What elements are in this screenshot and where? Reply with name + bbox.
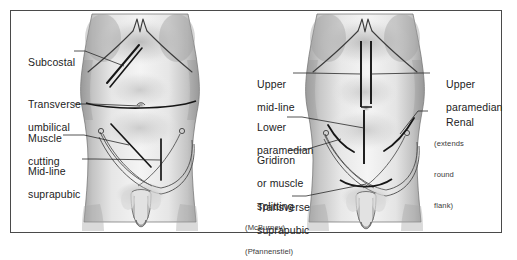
label-transverse-suprapubic-eponym: (Pfannenstiel)	[245, 248, 310, 256]
label-subcostal-text: Subcostal	[28, 56, 75, 68]
label-transverse-suprapubic: Transverse suprapubic (Pfannenstiel)	[245, 190, 310, 260]
label-transverse-suprapubic-line1: Transverse	[257, 201, 310, 213]
label-transverse-suprapubic-line2: suprapubic	[257, 224, 309, 236]
label-gridiron-line2: or muscle	[257, 177, 303, 189]
label-upper-paramedian-line1: Upper	[446, 78, 475, 90]
label-renal-note-line1: (extends	[434, 140, 474, 148]
label-upper-mid-line-line1: Upper	[257, 78, 286, 90]
label-renal-note-line3: flank)	[434, 202, 474, 210]
label-mid-line-suprapubic-line1: Mid-line	[28, 165, 66, 177]
label-gridiron-line1: Gridiron	[257, 154, 295, 166]
label-renal-line1: Renal	[446, 116, 474, 128]
label-transverse-umbilical-line1: Transverse	[28, 98, 81, 110]
label-renal: Renal (extends round flank)	[434, 105, 474, 234]
label-subcostal: Subcostal	[16, 45, 75, 80]
label-mid-line-suprapubic: Mid-line suprapubic	[16, 154, 80, 212]
label-renal-note-line2: round	[434, 171, 474, 179]
label-mid-line-suprapubic-line2: suprapubic	[28, 188, 80, 200]
label-lower-paramedian-line1: Lower	[257, 121, 286, 133]
label-muscle-cutting-line1: Muscle	[28, 132, 62, 144]
